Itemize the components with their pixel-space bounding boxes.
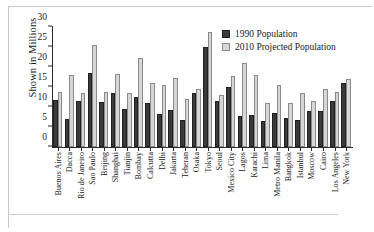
bar-2010 — [311, 101, 316, 147]
bar-2010 — [69, 75, 74, 147]
x-axis-label: Shanghai — [111, 152, 120, 182]
bar-2010 — [58, 92, 63, 147]
y-axis-tick-label: 20 — [38, 52, 53, 62]
bar-group — [156, 27, 168, 147]
x-axis-label-cell: Seoul — [213, 150, 225, 228]
bar-2010 — [196, 89, 201, 147]
bar-2010 — [254, 75, 259, 147]
x-axis-label: Lima — [261, 152, 270, 169]
legend-label-2010: 2010 Projected Population — [235, 42, 336, 52]
x-axis-label: New York — [342, 152, 351, 185]
bar-group — [75, 27, 87, 147]
legend-label-1990: 1990 Population — [235, 29, 298, 39]
x-axis-label: Tokyo — [203, 152, 212, 173]
bar-group — [340, 27, 352, 147]
x-axis-label-cell: Tianjin — [121, 150, 133, 228]
bar-2010 — [300, 93, 305, 147]
bar-2010 — [219, 95, 224, 147]
x-axis-label: Sao Paulo — [88, 152, 97, 185]
x-axis-label: Moscow — [307, 152, 316, 180]
x-axis-label-cell: Bombay — [133, 150, 145, 228]
bar-group — [64, 27, 76, 147]
legend-item-2010: 2010 Projected Population — [222, 42, 336, 52]
bar-2010 — [138, 58, 143, 147]
x-axis-label: Seoul — [215, 152, 224, 170]
x-axis-label-cell: Lima — [260, 150, 272, 228]
bar-2010 — [288, 103, 293, 147]
legend-swatch-2010-icon — [222, 43, 230, 51]
bar-2010 — [173, 78, 178, 147]
x-axis-label-cell: Shanghai — [110, 150, 122, 228]
x-axis-label: Osaka — [192, 152, 201, 172]
bar-2010 — [115, 74, 120, 147]
bar-group — [190, 27, 202, 147]
x-axis-label-cell: Istanbul — [294, 150, 306, 228]
bar-2010 — [127, 93, 132, 147]
bar-2010 — [335, 92, 340, 147]
legend-swatch-1990-icon — [222, 30, 230, 38]
x-axis-line — [52, 147, 353, 148]
y-axis-title: Shown in Millions — [27, 0, 38, 128]
x-axis-label-cell: Bangkok — [283, 150, 295, 228]
bar-2010 — [150, 83, 155, 147]
x-axis-label: Dacca — [65, 152, 74, 172]
x-axis-label-cell: Los Angeles — [329, 150, 341, 228]
x-axis-label: Buenos Aires — [53, 152, 62, 196]
bar-group — [202, 27, 214, 147]
chart-figure: Shown in Millions 051015202530 Buenos Ai… — [0, 0, 374, 232]
x-axis-label: Bombay — [134, 152, 143, 179]
bar-2010 — [346, 79, 351, 147]
bar-2010 — [323, 89, 328, 147]
bar-2010 — [265, 103, 270, 147]
x-axis-label: Mexico City — [226, 152, 235, 193]
bar-group — [98, 27, 110, 147]
x-axis-label: Los Angeles — [330, 152, 339, 192]
x-axis-label-cell: Moscow — [306, 150, 318, 228]
bar-2010 — [231, 76, 236, 147]
x-axis-label-cell: Tokyo — [202, 150, 214, 228]
bar-group — [52, 27, 64, 147]
y-axis-tick-label: 10 — [38, 92, 53, 102]
x-axis-label: Cairo — [318, 152, 327, 170]
x-axis-label-cell: Calcutta — [144, 150, 156, 228]
bar-group — [110, 27, 122, 147]
x-axis-label-cell: Karachi — [248, 150, 260, 228]
bar-group — [144, 27, 156, 147]
x-axis-label-cell: Jakarta — [167, 150, 179, 228]
x-axis-label-cell: Metro Manila — [271, 150, 283, 228]
x-axis-label-cell: Teheran — [179, 150, 191, 228]
x-axis-label-cell: Rio de Janeiro — [75, 150, 87, 228]
bar-2010 — [81, 93, 86, 147]
bar-2010 — [162, 85, 167, 147]
x-axis-label-cell: Delhi — [156, 150, 168, 228]
bar-2010 — [104, 92, 109, 147]
y-axis-tick-label: 0 — [42, 132, 52, 142]
y-axis-tick-label: 15 — [38, 72, 53, 82]
x-axis-label-cell: New York — [340, 150, 352, 228]
x-axis-label: Delhi — [157, 152, 166, 170]
x-axis-label: Beijing — [99, 152, 108, 176]
x-axis-label: Bangkok — [284, 152, 293, 181]
x-axis-label: Calcutta — [146, 152, 155, 179]
bar-2010 — [185, 99, 190, 147]
x-axis-label-cell: Dacca — [64, 150, 76, 228]
x-axis-label-cell: Lagos — [237, 150, 249, 228]
bar-group — [167, 27, 179, 147]
x-axis-label-cell: Beijing — [98, 150, 110, 228]
bar-group — [87, 27, 99, 147]
x-axis-label: Metro Manila — [272, 152, 281, 197]
x-axis-label-cell: Cairo — [317, 150, 329, 228]
bar-group — [179, 27, 191, 147]
bar-group — [133, 27, 145, 147]
legend-item-1990: 1990 Population — [222, 29, 336, 39]
bar-group — [121, 27, 133, 147]
x-axis-label-cell: Mexico City — [225, 150, 237, 228]
x-axis-label-cell: Buenos Aires — [52, 150, 64, 228]
x-axis-label: Tianjin — [122, 152, 131, 175]
x-axis-label: Teheran — [180, 152, 189, 178]
x-axis-label: Lagos — [238, 152, 247, 172]
x-axis-label: Rio de Janeiro — [76, 152, 85, 199]
bar-2010 — [92, 45, 97, 147]
y-axis-tick-label: 25 — [38, 32, 53, 42]
x-axis-label: Karachi — [249, 152, 258, 178]
